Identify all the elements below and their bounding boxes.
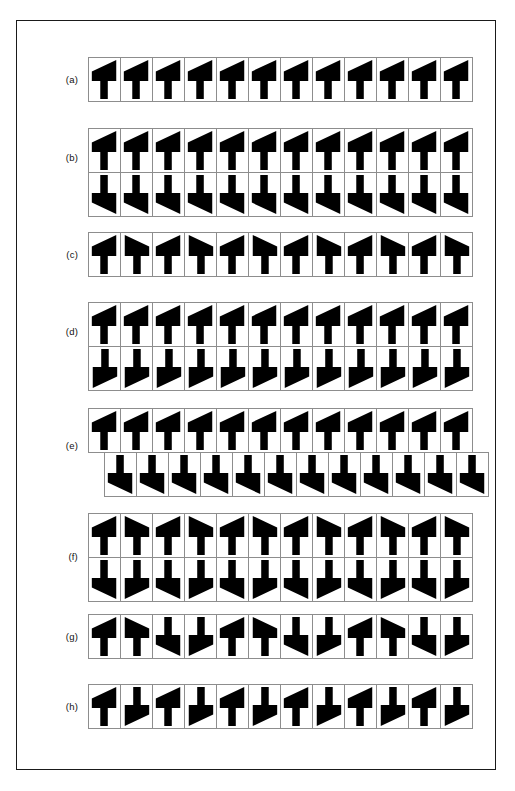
motif-transform-group xyxy=(189,349,213,388)
motif-transform-group xyxy=(412,175,436,214)
flag-motif-icon xyxy=(445,235,469,274)
flag-motif-icon xyxy=(284,687,308,726)
flag-motif-icon xyxy=(188,131,212,170)
motif-cell xyxy=(312,684,345,729)
flag-motif-icon xyxy=(444,411,468,450)
motif-cell xyxy=(184,557,217,602)
flag-motif-icon xyxy=(444,305,468,344)
flag-motif-icon xyxy=(381,560,405,599)
motif-transform-group xyxy=(284,617,308,656)
motif-transform-group xyxy=(253,235,277,274)
flag-motif-icon xyxy=(381,617,405,656)
motif-strip xyxy=(88,614,472,658)
motif-transform-group xyxy=(156,411,180,450)
motif-cell xyxy=(120,513,153,558)
motif-cell xyxy=(216,513,249,558)
flag-motif-icon xyxy=(253,560,277,599)
motif-strip xyxy=(88,684,472,728)
motif-transform-group xyxy=(220,305,244,344)
motif-transform-group xyxy=(124,305,148,344)
motif-transform-group xyxy=(381,617,405,656)
motif-cell xyxy=(440,57,473,102)
motif-transform-group xyxy=(348,560,372,599)
flag-motif-icon xyxy=(156,411,180,450)
flag-motif-icon xyxy=(124,60,148,99)
motif-cell xyxy=(88,232,121,277)
motif-transform-group xyxy=(317,687,341,726)
motif-transform-group xyxy=(412,411,436,450)
motif-transform-group xyxy=(348,235,372,274)
motif-strip xyxy=(104,452,488,496)
motif-transform-group xyxy=(317,617,341,656)
motif-cell xyxy=(184,128,217,173)
motif-transform-group xyxy=(188,411,212,450)
flag-motif-icon xyxy=(252,411,276,450)
flag-motif-icon xyxy=(124,175,148,214)
flag-motif-icon xyxy=(92,516,116,555)
motif-transform-group xyxy=(125,349,149,388)
flag-motif-icon xyxy=(284,131,308,170)
motif-transform-group xyxy=(412,617,436,656)
motif-transform-group xyxy=(188,60,212,99)
flag-motif-icon xyxy=(92,687,116,726)
motif-cell xyxy=(312,172,345,217)
row-label-e: (e) xyxy=(38,440,78,451)
motif-strip xyxy=(88,513,472,557)
motif-transform-group xyxy=(348,411,372,450)
motif-cell xyxy=(120,172,153,217)
motif-strip xyxy=(88,346,472,390)
motif-cell xyxy=(152,684,185,729)
flag-motif-icon xyxy=(348,235,372,274)
motif-cell xyxy=(408,513,441,558)
motif-cell xyxy=(344,684,377,729)
flag-motif-icon xyxy=(220,175,244,214)
motif-transform-group xyxy=(252,175,276,214)
motif-transform-group xyxy=(92,175,116,214)
flag-motif-icon xyxy=(220,305,244,344)
motif-cell xyxy=(248,684,281,729)
flag-motif-icon xyxy=(348,516,372,555)
motif-cell xyxy=(184,232,217,277)
flag-motif-icon xyxy=(348,617,372,656)
motif-transform-group xyxy=(92,131,116,170)
flag-motif-icon xyxy=(125,349,149,388)
motif-cell xyxy=(312,128,345,173)
motif-transform-group xyxy=(93,349,117,388)
flag-motif-icon xyxy=(412,516,436,555)
flag-motif-icon xyxy=(252,175,276,214)
motif-transform-group xyxy=(445,560,469,599)
flag-motif-icon xyxy=(445,617,469,656)
motif-transform-group xyxy=(92,617,116,656)
motif-transform-group xyxy=(220,131,244,170)
motif-cell xyxy=(312,557,345,602)
motif-cell xyxy=(184,513,217,558)
flag-motif-icon xyxy=(381,235,405,274)
motif-cell xyxy=(184,172,217,217)
motif-cell xyxy=(248,513,281,558)
motif-transform-group xyxy=(108,455,132,494)
flag-motif-icon xyxy=(412,175,436,214)
motif-transform-group xyxy=(220,60,244,99)
flag-motif-icon xyxy=(253,235,277,274)
motif-transform-group xyxy=(156,235,180,274)
motif-cell xyxy=(376,128,409,173)
motif-cell xyxy=(120,614,153,659)
motif-cell xyxy=(280,614,313,659)
flag-motif-icon xyxy=(444,131,468,170)
motif-transform-group xyxy=(220,235,244,274)
motif-transform-group xyxy=(253,560,277,599)
motif-cell xyxy=(312,513,345,558)
motif-cell xyxy=(248,302,281,347)
flag-motif-icon xyxy=(284,516,308,555)
motif-cell xyxy=(264,452,297,497)
motif-transform-group xyxy=(253,349,277,388)
motif-cell xyxy=(280,232,313,277)
motif-cell xyxy=(88,172,121,217)
motif-cell xyxy=(376,232,409,277)
flag-motif-icon xyxy=(284,175,308,214)
motif-transform-group xyxy=(125,617,149,656)
motif-transform-group xyxy=(253,687,277,726)
motif-transform-group xyxy=(381,349,405,388)
motif-cell xyxy=(248,557,281,602)
row-label-c: (c) xyxy=(38,249,78,260)
